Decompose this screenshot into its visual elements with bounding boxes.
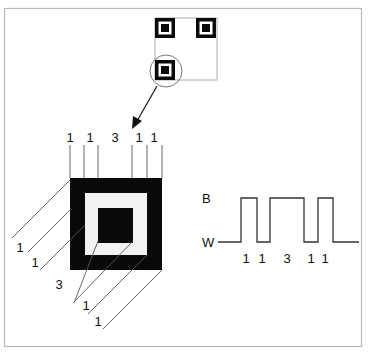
ratio-label: 1 [16,240,23,255]
arrow-icon [132,86,157,129]
ratio-label: 1 [135,130,142,145]
signal-ratio-label: 1 [321,251,328,266]
finder-pattern-top-right [196,18,216,38]
signal-ratio-label: 1 [258,251,265,266]
signal-ratio-label: 1 [242,251,249,266]
ratio-label: 3 [111,130,118,145]
signal-high-label: B [202,191,211,206]
ratio-label: 1 [94,314,101,329]
top-ratio-labels: 1 1 3 1 1 [66,130,157,145]
ratio-label: 1 [66,130,73,145]
finder-pattern-enlarged [70,178,162,270]
finder-pattern-bottom-left [155,60,175,80]
ratio-label: 3 [55,277,62,292]
signal-ratio-label: 3 [283,251,290,266]
ratio-label: 1 [86,130,93,145]
ratio-label: 1 [31,255,38,270]
qr-finder-pattern-diagram: 1 1 3 1 1 1 1 3 1 1 B W 1 1 3 1 1 [0,0,370,355]
finder-pattern-top-left [155,18,175,38]
diagram-frame [5,9,362,347]
signal-low-label: W [202,235,215,250]
ratio-label: 1 [82,298,89,313]
signal-ratio-label: 1 [307,251,314,266]
signal-waveform: B W 1 1 3 1 1 [202,191,359,266]
ratio-label: 1 [150,130,157,145]
qr-overview [150,18,217,87]
